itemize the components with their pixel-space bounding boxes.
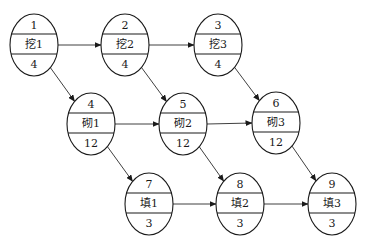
node-6: 6砌312 [252, 92, 300, 154]
edge-1-to-4 [50, 68, 74, 102]
node-2: 2挖24 [101, 14, 149, 76]
node-duration: 12 [84, 137, 98, 150]
node-duration: 3 [146, 217, 153, 230]
edge-6-to-9 [292, 146, 316, 181]
node-activity-name: 填2 [231, 196, 249, 210]
node-duration: 4 [215, 58, 222, 71]
node-activity-name: 砌3 [267, 116, 285, 129]
node-8: 8填23 [216, 173, 264, 235]
node-number: 4 [88, 98, 95, 111]
node-5: 5砌212 [159, 93, 207, 155]
node-activity-name: 填1 [140, 196, 158, 210]
node-number: 9 [329, 178, 336, 191]
node-number: 7 [146, 178, 153, 191]
node-number: 8 [237, 178, 244, 191]
diagram-canvas: 1挖142挖243挖344砌1125砌2126砌3127填138填239填33 [0, 0, 366, 248]
node-activity-name: 砌1 [82, 117, 100, 130]
node-activity-name: 挖2 [116, 37, 134, 51]
node-number: 2 [122, 19, 129, 32]
node-duration: 4 [122, 58, 129, 71]
node-activity-name: 挖1 [25, 37, 43, 51]
node-duration: 3 [329, 217, 336, 230]
node-duration: 4 [31, 58, 38, 71]
node-9: 9填33 [308, 173, 356, 235]
edge-5-to-8 [199, 147, 223, 181]
edge-5-to-6 [207, 123, 252, 124]
node-number: 1 [31, 19, 38, 32]
node-activity-name: 挖3 [209, 37, 227, 51]
node-number: 3 [215, 19, 222, 32]
node-1: 1挖14 [10, 14, 58, 76]
edge-3-to-6 [235, 67, 260, 100]
node-7: 7填13 [125, 173, 173, 235]
node-3: 3挖34 [194, 14, 242, 76]
node-number: 5 [180, 98, 187, 111]
node-duration: 12 [269, 136, 283, 149]
network-diagram: 1挖142挖243挖344砌1125砌2126砌3127填138填239填33 [0, 0, 366, 248]
node-activity-name: 填3 [323, 196, 341, 210]
nodes-layer: 1挖142挖243挖344砌1125砌2126砌3127填138填239填33 [10, 14, 356, 235]
node-4: 4砌112 [67, 93, 115, 155]
node-number: 6 [273, 97, 280, 110]
edge-4-to-7 [107, 147, 132, 182]
node-duration: 12 [176, 137, 190, 150]
node-activity-name: 砌2 [174, 117, 192, 130]
edge-2-to-5 [142, 68, 167, 102]
node-duration: 3 [237, 217, 244, 230]
